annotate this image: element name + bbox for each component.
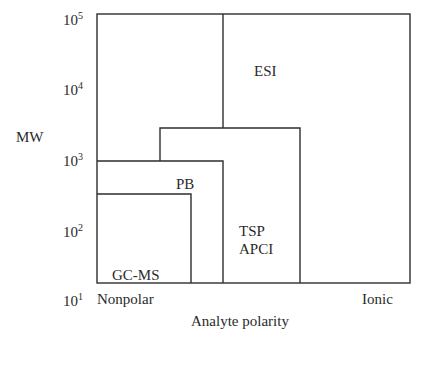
tick-base: 10 [63, 153, 78, 169]
y-tick-1e3: 103 [63, 153, 83, 169]
region-label-gcms: GC-MS [112, 266, 160, 284]
y-tick-1e4: 104 [63, 82, 83, 98]
region-label-pb: PB [176, 175, 194, 193]
region-label-apci: APCI [239, 240, 273, 258]
tick-exponent: 5 [78, 10, 83, 21]
tick-base: 10 [63, 293, 78, 309]
tick-exponent: 4 [78, 80, 83, 91]
region-label-tsp: TSP [239, 222, 273, 240]
y-axis-label: MW [16, 129, 44, 145]
tsp-apci-boundary [160, 128, 300, 283]
y-tick-1e5: 105 [63, 12, 83, 28]
tick-base: 10 [63, 82, 78, 98]
pb-boundary [97, 161, 223, 283]
tick-exponent: 2 [78, 222, 83, 233]
x-axis-right-end-label: Ionic [362, 291, 393, 307]
tick-exponent: 3 [78, 151, 83, 162]
tick-base: 10 [63, 224, 78, 240]
tick-base: 10 [63, 12, 78, 28]
region-label-esi: ESI [254, 62, 277, 80]
y-tick-1e2: 102 [63, 224, 83, 240]
x-axis-label: Analyte polarity [191, 313, 289, 329]
tick-exponent: 1 [78, 291, 83, 302]
region-label-tsp-apci: TSP APCI [239, 222, 273, 258]
y-tick-1e1: 101 [63, 293, 83, 309]
x-axis-left-end-label: Nonpolar [97, 291, 154, 307]
